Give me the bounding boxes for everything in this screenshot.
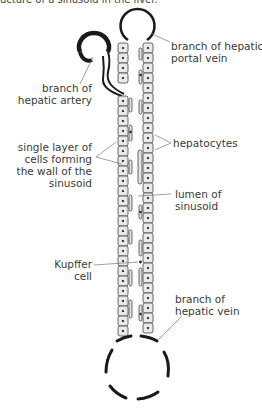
label-lumen: lumen of sinusoid (175, 188, 221, 212)
hepatic-vein-icon (106, 336, 169, 399)
label-hepatic-vein: branch of hepatic vein (175, 293, 240, 317)
endothelial-cells (129, 48, 142, 321)
leader-lines (80, 34, 182, 340)
label-portal-vein: branch of hepatic portal vein (171, 40, 262, 64)
label-kupffer-cell: Kupffer cell (40, 258, 92, 282)
label-sinusoid-wall: single layer of cells forming the wall o… (10, 141, 92, 189)
label-hepatic-artery: branch of hepatic artery (10, 82, 92, 106)
portal-vein-icon (120, 9, 154, 40)
label-hepatocytes: hepatocytes (173, 137, 238, 149)
